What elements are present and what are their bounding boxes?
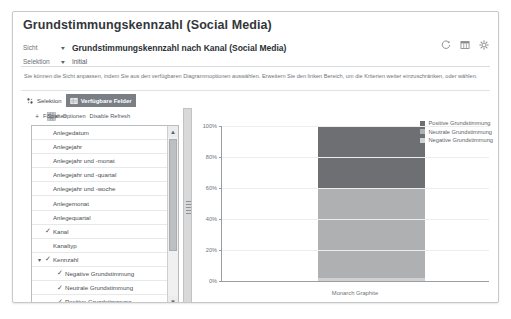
field-checkbox[interactable]: ✓ (45, 227, 53, 235)
y-axis-tick (219, 157, 222, 158)
field-list-item-label: Anlegemonat (53, 200, 167, 207)
field-list-item-label: Kennzahl (53, 256, 167, 263)
chart-legend-swatch (420, 121, 425, 126)
field-checkbox[interactable]: ✓ (57, 269, 65, 277)
field-list-item-label: Anlegedatum (53, 129, 167, 136)
view-label: Sicht (23, 44, 57, 51)
field-list-item[interactable]: Anlegejahr und -woche (32, 182, 167, 196)
field-list-item-label: Anlegequartal (53, 214, 167, 221)
chart-bar-segment[interactable] (318, 278, 425, 281)
y-axis-tick-label: 80% (206, 154, 217, 160)
field-list-item-label: Anlegejahr und -woche (53, 185, 167, 192)
table-view-icon[interactable] (460, 40, 470, 50)
field-list-item-label: Positive Grundstimmung (65, 298, 167, 303)
gear-icon[interactable] (479, 40, 489, 50)
y-axis-tick-label: 100% (203, 123, 217, 129)
options-link[interactable]: Optionen (63, 113, 86, 119)
field-list-item[interactable]: ✓Kanal (32, 225, 167, 239)
chart-gridline (222, 219, 489, 220)
field-list-item-label: Kanaltyp (53, 242, 167, 249)
description-divider (21, 90, 490, 91)
refresh-icon[interactable] (441, 40, 451, 50)
chart-gridline (222, 188, 489, 189)
y-axis-tick (219, 188, 222, 189)
tab-selektion-label: Selektion (37, 98, 62, 104)
y-axis-tick-label: 20% (206, 247, 217, 253)
field-list-item[interactable]: ✓Negative Grundstimmung (32, 267, 167, 281)
field-list-item[interactable]: Anlegejahr (32, 140, 167, 154)
fields-icon (70, 97, 78, 105)
tab-verfuegbare-felder[interactable]: Verfügbare Felder (66, 94, 136, 107)
y-axis-tick (219, 281, 222, 282)
field-list-item-label: Anlegejahr (53, 143, 167, 150)
available-fields-panel: AnlegedatumAnlegejahrAnlegejahr und -mon… (31, 125, 179, 303)
add-field-icon[interactable]: + (35, 113, 39, 120)
y-axis-tick-label: 40% (206, 216, 217, 222)
field-list-item[interactable]: Anlegedatum (32, 126, 167, 140)
chart-gridline (222, 157, 489, 158)
splitter-grip (186, 201, 191, 214)
field-list-item[interactable]: ✓Positive Grundstimmung (32, 295, 167, 303)
chart-legend-item[interactable]: Positive Grundstimmung (420, 120, 494, 126)
selection-value[interactable]: Initial (72, 58, 87, 65)
y-axis-tick (219, 250, 222, 251)
field-list-item[interactable]: Anlegejahr und -monat (32, 154, 167, 168)
description-text: Sie können die Sicht anpassen, indem Sie… (24, 72, 488, 81)
selection-row: Selektion ▾ Initial (23, 52, 87, 70)
chart-plot: 0%20%40%60%80%100% (221, 126, 489, 282)
field-list[interactable]: AnlegedatumAnlegejahrAnlegejahr und -mon… (32, 126, 167, 303)
selection-label: Selektion (23, 58, 57, 65)
panel-tabs: Selektion Verfügbare Felder (22, 94, 136, 107)
header-toolbar (441, 40, 489, 50)
chart-legend: Positive GrundstimmungNeutrale Grundstim… (420, 120, 494, 143)
chart-gridline (222, 250, 489, 251)
selection-icon (26, 97, 34, 105)
scroll-thumb[interactable] (169, 139, 177, 251)
chart-legend-swatch (420, 138, 425, 143)
x-axis-tick-label: Monarch Graphite (221, 290, 489, 296)
field-list-item[interactable]: ▾✓Kennzahl (32, 253, 167, 267)
field-list-item[interactable]: Anlegequartal (32, 211, 167, 225)
chevron-down-icon[interactable]: ▾ (61, 44, 65, 51)
chart-legend-item[interactable]: Neutrale Grundstimmung (420, 129, 494, 135)
field-list-scrollbar[interactable]: ▲ ▼ (167, 126, 178, 303)
chart-area: 0%20%40%60%80%100% Monarch Graphite Posi… (195, 122, 495, 303)
field-list-item[interactable]: Anlegemonat (32, 196, 167, 210)
y-axis-tick-label: 0% (209, 278, 217, 284)
chevron-down-icon[interactable]: ▾ (61, 58, 65, 65)
panel-splitter[interactable] (183, 108, 192, 303)
field-list-item-label: Neutrale Grundstimmung (65, 284, 167, 291)
field-list-item-label: Kanal (53, 228, 167, 235)
chart-legend-swatch (420, 129, 425, 134)
field-checkbox[interactable]: ✓ (57, 284, 65, 292)
y-axis-tick-label: 60% (206, 185, 217, 191)
chart-legend-label: Negative Grundstimmung (429, 137, 494, 143)
chart-legend-label: Neutrale Grundstimmung (429, 129, 493, 135)
field-action-strip: + Felder Spalten Optionen Disable Refres… (35, 110, 185, 122)
chart-legend-item[interactable]: Negative Grundstimmung (420, 137, 494, 143)
chart-bar-monarch-graphite[interactable] (318, 126, 425, 281)
field-checkbox[interactable]: ✓ (57, 298, 65, 303)
field-list-item[interactable]: Kanaltyp (32, 239, 167, 253)
view-value[interactable]: Grundstimmungskennzahl nach Kanal (Socia… (72, 43, 286, 53)
y-axis-tick (219, 126, 222, 127)
field-list-item-label: Anlegejahr und -monat (53, 157, 167, 164)
tab-verfuegbare-felder-label: Verfügbare Felder (81, 98, 132, 104)
chart-bar-segment[interactable] (318, 188, 425, 278)
field-list-item[interactable]: ✓Neutrale Grundstimmung (32, 281, 167, 295)
field-checkbox[interactable]: ✓ (45, 255, 53, 263)
scroll-up-arrow[interactable]: ▲ (168, 126, 178, 137)
expand-collapse-icon[interactable]: ▾ (38, 256, 45, 263)
field-list-item-label: Negative Grundstimmung (65, 270, 167, 277)
page-title: Grundstimmungskennzahl (Social Media) (23, 18, 272, 32)
field-list-item-label: Anlegejahr und -quartal (53, 171, 167, 178)
field-list-item[interactable]: Anlegejahr und -quartal (32, 168, 167, 182)
scroll-down-arrow[interactable]: ▼ (168, 296, 178, 303)
chart-legend-label: Positive Grundstimmung (429, 120, 491, 126)
y-axis-tick (219, 219, 222, 220)
tab-selektion[interactable]: Selektion (22, 94, 66, 107)
header-divider (21, 66, 490, 67)
report-panel: Grundstimmungskennzahl (Social Media) Si… (12, 11, 499, 303)
disable-refresh-link[interactable]: Disable Refresh (90, 113, 130, 119)
